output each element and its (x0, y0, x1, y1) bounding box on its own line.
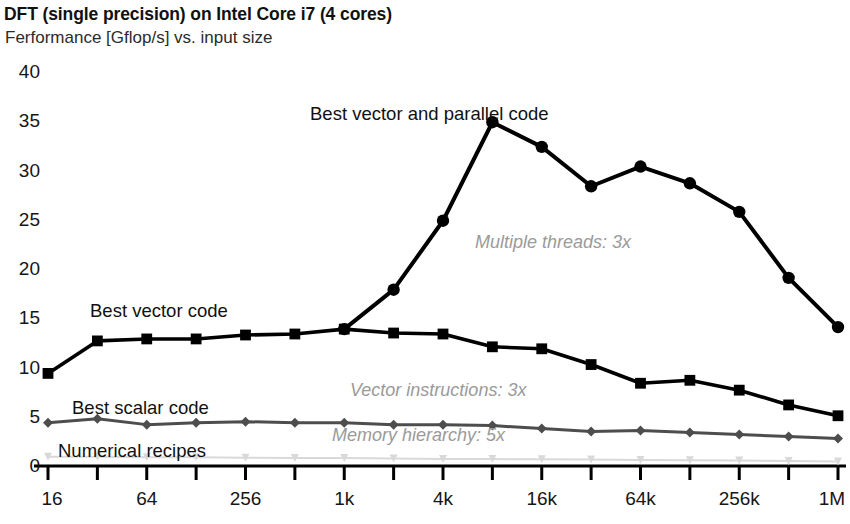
series-label: Best vector code (90, 300, 228, 322)
data-point-marker-diamond (734, 429, 744, 439)
chart-annotation: Multiple threads: 3x (475, 232, 631, 253)
x-axis-ticks (48, 466, 838, 480)
data-point-marker-diamond (191, 418, 201, 428)
x-axis-tick-label: 64 (136, 488, 157, 510)
x-axis-tick-label: 64k (625, 488, 656, 510)
y-axis-tick-label: 10 (0, 357, 40, 379)
data-point-marker-circle (782, 272, 794, 284)
data-point-marker-circle (585, 180, 597, 192)
data-point-marker-diamond (241, 417, 251, 427)
data-point-marker-square (240, 330, 251, 341)
data-point-marker-diamond (636, 426, 646, 436)
y-axis-tick-label: 15 (0, 307, 40, 329)
data-point-marker-square (487, 341, 498, 352)
y-axis-tick-label: 20 (0, 258, 40, 280)
y-axis-tick-label: 30 (0, 160, 40, 182)
data-point-marker-square (684, 375, 695, 386)
y-axis-tick-label: 5 (0, 406, 40, 428)
y-axis-tick-label: 0 (0, 455, 40, 477)
data-point-marker-square (191, 334, 202, 345)
data-point-marker-square (586, 359, 597, 370)
data-point-marker-circle (832, 321, 844, 333)
data-point-marker-diamond (784, 431, 794, 441)
data-point-marker-diamond (537, 424, 547, 434)
data-point-marker-diamond (833, 433, 843, 443)
data-point-marker-diamond (685, 428, 695, 438)
chart-page: DFT (single precision) on Intel Core i7 … (0, 0, 850, 524)
data-point-marker-square (388, 328, 399, 339)
x-axis-tick-label: 256k (719, 488, 760, 510)
y-axis-tick-label: 40 (0, 61, 40, 83)
y-axis-tick-label: 35 (0, 110, 40, 132)
series-label: Numerical recipes (58, 440, 206, 462)
series-line (344, 122, 838, 329)
chart-annotation: Memory hierarchy: 5x (332, 425, 505, 446)
data-point-marker-circle (387, 283, 399, 295)
x-axis-tick-label: 1k (334, 488, 354, 510)
series-label: Best scalar code (72, 397, 209, 419)
data-point-marker-square (43, 368, 54, 379)
data-point-marker-circle (634, 160, 646, 172)
chart-annotation: Vector instructions: 3x (350, 380, 526, 401)
y-axis-tick-label: 25 (0, 209, 40, 231)
data-point-marker-diamond (290, 418, 300, 428)
data-point-marker-circle (536, 141, 548, 153)
x-axis-tick-label: 16 (41, 488, 62, 510)
data-point-marker-square (734, 385, 745, 396)
data-point-marker-square (833, 410, 844, 421)
data-point-marker-square (438, 329, 449, 340)
data-point-marker-circle (338, 323, 350, 335)
data-point-marker-square (92, 336, 103, 347)
data-point-marker-square (635, 378, 646, 389)
data-point-marker-diamond (586, 427, 596, 437)
x-axis-tick-label: 1M (819, 488, 845, 510)
data-point-marker-diamond (43, 418, 53, 428)
series-label: Best vector and parallel code (310, 103, 549, 125)
x-axis-tick-label: 4k (433, 488, 453, 510)
x-axis-tick-label: 16k (526, 488, 557, 510)
data-point-marker-square (289, 329, 300, 340)
data-point-marker-circle (684, 177, 696, 189)
data-point-marker-circle (437, 215, 449, 227)
series-best-vector-and-parallel-code (338, 116, 844, 335)
data-point-marker-diamond (142, 420, 152, 430)
data-point-marker-square (141, 334, 152, 345)
data-point-marker-circle (733, 206, 745, 218)
x-axis-tick-label: 256 (230, 488, 262, 510)
data-point-marker-square (783, 400, 794, 411)
data-point-marker-square (536, 343, 547, 354)
